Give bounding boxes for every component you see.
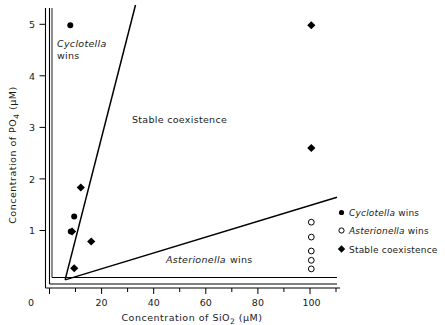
y-axis-tick-labels: 5 4 3 2 1 xyxy=(29,19,35,236)
legend-label-suffix-0: wins xyxy=(398,208,419,218)
cyclotella-wins-label-species: Cyclotella xyxy=(57,38,107,49)
x-tick-label-40: 40 xyxy=(148,297,160,308)
x-axis-ticks xyxy=(50,288,337,294)
x-axis-label: Concentration of SiO2 (μM) xyxy=(121,312,262,325)
data-point xyxy=(71,214,77,220)
y-axis-ticks xyxy=(40,24,46,230)
x-axis-tick-labels: 0 20 40 60 80 100 xyxy=(28,297,321,308)
legend-marker-filled-circle-icon xyxy=(339,210,344,215)
plot-frame xyxy=(46,8,341,288)
svg-text:Cyclotellawins: Cyclotellawins xyxy=(349,208,419,218)
cyclotella-wins-label-verb: wins xyxy=(57,50,80,61)
y-tick-label-3: 3 xyxy=(29,122,35,133)
x-tick-label-20: 20 xyxy=(96,297,108,308)
data-point xyxy=(67,22,73,28)
series-stable-coexistence-markers xyxy=(68,21,315,272)
y-tick-label-5: 5 xyxy=(29,19,35,30)
data-point xyxy=(70,264,78,272)
y-tick-label-2: 2 xyxy=(29,174,35,185)
figure-container: 0 20 40 60 80 100 Concentration of SiO2 … xyxy=(0,0,445,325)
legend-marker-filled-diamond-icon xyxy=(338,245,345,252)
y-axis-label-pre: Concentration of PO xyxy=(7,119,18,224)
asterionella-wins-label-species: Asterionella xyxy=(165,254,226,265)
data-point xyxy=(68,228,76,236)
competition-scatter-plot: 0 20 40 60 80 100 Concentration of SiO2 … xyxy=(0,0,445,325)
legend-item-cyclotella-wins[interactable]: Cyclotellawins xyxy=(339,208,419,218)
region-label-stable-coexistence: Stable coexistence xyxy=(132,114,227,125)
y-axis-label: Concentration of PO4 (μM) xyxy=(7,86,21,224)
legend-label-species-1: Asterionella xyxy=(348,226,405,236)
x-axis-label-pre: Concentration of SiO xyxy=(121,312,230,323)
svg-text:Concentration of SiO2 (μM): Concentration of SiO2 (μM) xyxy=(121,312,262,325)
legend-label-suffix-2: Stable coexistence xyxy=(349,245,438,255)
data-point xyxy=(77,184,85,192)
y-tick-label-4: 4 xyxy=(29,71,35,82)
data-point xyxy=(308,234,314,240)
x-tick-label-0: 0 xyxy=(28,297,34,308)
region-label-asterionella-wins: Asterionellawins xyxy=(165,254,253,265)
svg-text:Asterionellawins: Asterionellawins xyxy=(165,254,253,265)
svg-text:Asterionellawins: Asterionellawins xyxy=(348,226,429,236)
data-point xyxy=(308,266,314,272)
y-tick-label-1: 1 xyxy=(29,225,35,236)
legend-label-suffix-1: wins xyxy=(408,226,429,236)
legend-marker-open-circle-icon xyxy=(339,228,344,233)
x-tick-label-60: 60 xyxy=(200,297,212,308)
asterionella-wins-label-verb: wins xyxy=(230,254,253,265)
x-tick-label-80: 80 xyxy=(252,297,264,308)
x-tick-label-100: 100 xyxy=(302,297,320,308)
data-point xyxy=(308,257,314,263)
x-axis-label-post: (μM) xyxy=(235,312,262,323)
svg-text:Concentration of PO4 (μM): Concentration of PO4 (μM) xyxy=(7,86,21,224)
legend-item-asterionella-wins[interactable]: Asterionellawins xyxy=(339,226,429,236)
data-point xyxy=(308,219,314,225)
legend: Cyclotellawins Asterionellawins Stable c… xyxy=(338,208,438,255)
data-point xyxy=(307,21,315,29)
series-asterionella-wins-markers xyxy=(308,219,314,271)
data-point xyxy=(307,144,315,152)
data-point xyxy=(308,248,314,254)
region-label-cyclotella-wins: Cyclotella wins xyxy=(57,38,107,61)
legend-item-stable-coexistence[interactable]: Stable coexistence xyxy=(338,245,438,255)
legend-label-species-0: Cyclotella xyxy=(349,208,395,218)
coexistence-asterionella-boundary xyxy=(65,197,337,280)
data-point xyxy=(87,237,95,245)
stable-coexistence-label: Stable coexistence xyxy=(132,114,227,125)
y-axis-label-post: (μM) xyxy=(7,86,18,113)
